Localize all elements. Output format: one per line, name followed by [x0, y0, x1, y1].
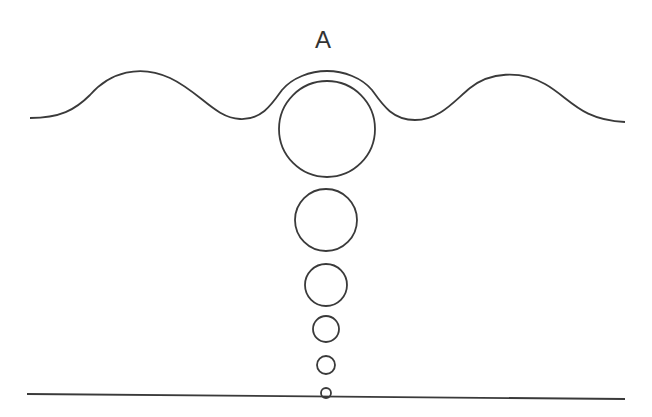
bubble-2 [295, 189, 357, 251]
bubble-3 [305, 264, 347, 306]
wave-surface [30, 71, 625, 122]
label-a: A [315, 26, 331, 53]
bubble-4 [313, 316, 339, 342]
bubble-1 [279, 81, 375, 177]
bubble-column [279, 81, 375, 398]
diagram-svg: A [0, 0, 652, 417]
bubble-diagram: A [0, 0, 652, 417]
bubble-5 [317, 356, 335, 374]
